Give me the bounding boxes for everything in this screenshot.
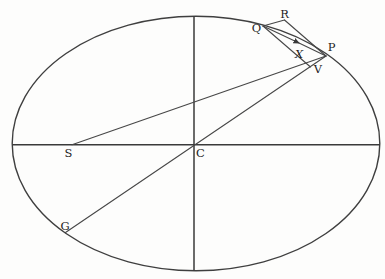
label-point-x: X	[294, 47, 304, 61]
label-point-c: C	[196, 146, 205, 160]
label-point-r: R	[280, 7, 289, 21]
focal-line-sp	[72, 56, 326, 145]
diagram-canvas: R Q P X V S C G	[0, 0, 385, 279]
label-point-v: V	[313, 62, 323, 76]
ellipse-diagram: R Q P X V S C G	[0, 0, 385, 279]
label-point-s: S	[65, 146, 73, 160]
label-point-p: P	[328, 40, 336, 54]
label-point-q: Q	[252, 21, 261, 35]
label-point-g: G	[60, 219, 69, 233]
segment-qr	[263, 20, 285, 26]
